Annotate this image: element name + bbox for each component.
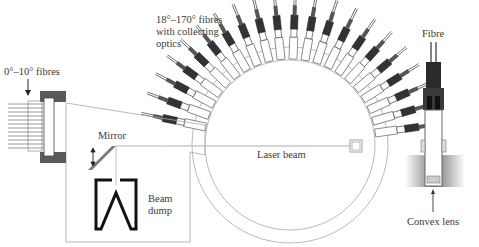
label-arc-fibres-line1: 18°–170° fibres xyxy=(156,14,246,26)
beam-dump xyxy=(96,180,136,229)
label-fibre: Fibre xyxy=(422,28,444,40)
label-forward-fibres: 0°–10° fibres xyxy=(4,66,60,78)
forward-fibre-block xyxy=(8,91,66,163)
double-arrow-icon xyxy=(91,148,95,166)
label-beam-dump-line2: dump xyxy=(148,205,173,217)
label-beam-dump-line1: Beam xyxy=(148,193,173,205)
beam-port xyxy=(350,140,362,152)
label-arc-fibres-line2: with collecting xyxy=(156,26,246,38)
arrow-down-icon xyxy=(25,79,31,96)
label-laser-beam: Laser beam xyxy=(257,149,306,161)
label-beam-dump: Beam dump xyxy=(148,193,173,217)
label-convex-lens: Convex lens xyxy=(407,216,459,228)
label-arc-fibres: 18°–170° fibres with collecting optics xyxy=(156,14,246,50)
label-arc-fibres-line3: optics xyxy=(156,38,246,50)
label-mirror: Mirror xyxy=(98,130,126,142)
